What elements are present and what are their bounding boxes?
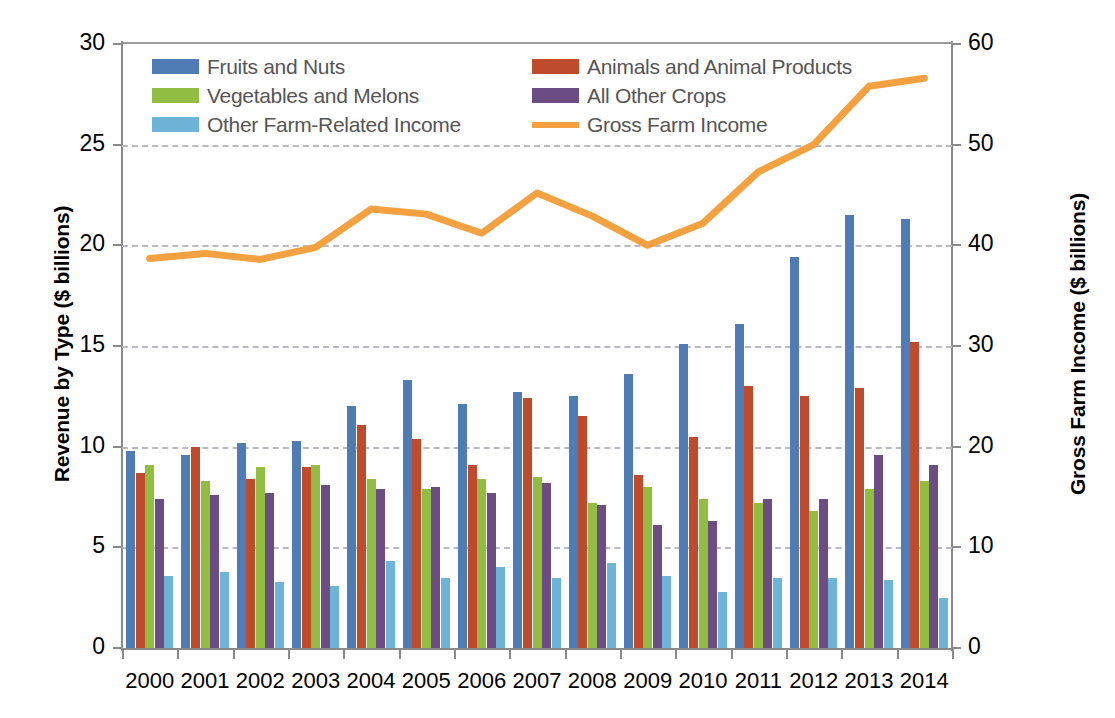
bar <box>513 392 522 648</box>
bar <box>578 416 587 648</box>
bar <box>126 451 135 648</box>
bar <box>458 404 467 648</box>
y-axis-left-tick-label: 30 <box>45 29 105 56</box>
x-axis-tick <box>565 649 567 659</box>
bar <box>754 503 763 648</box>
x-axis-tick <box>731 649 733 659</box>
y-axis-left-tick <box>113 647 122 649</box>
y-axis-left-tick <box>113 43 122 45</box>
legend-item-label: All Other Crops <box>587 84 726 108</box>
legend-color-swatch-icon <box>152 59 199 74</box>
y-axis-right-tick-label: 50 <box>968 130 1028 157</box>
bar <box>311 465 320 648</box>
bar <box>357 425 366 648</box>
bar <box>376 489 385 648</box>
bar <box>662 576 671 648</box>
legend-color-swatch-icon <box>532 59 579 74</box>
bar <box>597 505 606 648</box>
x-axis-line <box>121 648 953 650</box>
bar <box>201 481 210 648</box>
y-axis-left-tick <box>113 345 122 347</box>
bar <box>773 578 782 648</box>
legend-item[interactable]: Fruits and Nuts <box>152 52 461 81</box>
x-axis-tick <box>509 649 511 659</box>
bar <box>624 374 633 648</box>
bar <box>929 465 938 648</box>
y-axis-right-tick <box>952 546 961 548</box>
bar <box>828 578 837 648</box>
legend-color-swatch-icon <box>532 88 579 103</box>
x-axis-tick <box>786 649 788 659</box>
x-axis-tick <box>343 649 345 659</box>
bar <box>275 582 284 648</box>
legend-item[interactable]: All Other Crops <box>532 81 852 110</box>
bar <box>689 437 698 648</box>
bar <box>569 396 578 648</box>
bar <box>845 215 854 648</box>
bar <box>800 396 809 648</box>
y-axis-right-tick <box>952 446 961 448</box>
y-axis-right-tick-label: 0 <box>968 633 1028 660</box>
legend-column-right: Animals and Animal ProductsAll Other Cro… <box>532 52 852 139</box>
x-axis-tick <box>288 649 290 659</box>
bar <box>246 479 255 648</box>
x-axis-tick <box>399 649 401 659</box>
chart-legend: Fruits and NutsVegetables and MelonsOthe… <box>152 52 912 140</box>
y-axis-left-tick <box>113 244 122 246</box>
x-axis-tick <box>620 649 622 659</box>
bar <box>819 499 828 648</box>
legend-item-label: Gross Farm Income <box>587 113 767 137</box>
y-axis-right-tick-label: 60 <box>968 29 1028 56</box>
bar <box>256 467 265 648</box>
legend-color-swatch-icon <box>152 88 199 103</box>
x-axis-tick-label: 2014 <box>889 668 959 694</box>
y-axis-right-tick-label: 10 <box>968 532 1028 559</box>
bar <box>643 487 652 648</box>
y-axis-right-title: Gross Farm Income ($ billions) <box>1066 134 1090 554</box>
bar <box>422 489 431 648</box>
bar <box>477 479 486 648</box>
legend-line-swatch-icon <box>532 122 579 128</box>
y-axis-left-tick-label: 5 <box>45 532 105 559</box>
chart-container: Revenue by Type ($ billions) Gross Farm … <box>0 0 1115 718</box>
bar <box>763 499 772 648</box>
bar <box>679 344 688 648</box>
bar <box>607 563 616 648</box>
legend-item[interactable]: Animals and Animal Products <box>532 52 852 81</box>
gridline <box>122 447 952 449</box>
bar <box>441 578 450 648</box>
bar <box>653 525 662 648</box>
bar <box>496 567 505 648</box>
y-axis-left-tick-label: 25 <box>45 130 105 157</box>
bar <box>855 388 864 648</box>
x-axis-tick <box>233 649 235 659</box>
bar <box>634 475 643 648</box>
bar <box>386 561 395 648</box>
bar <box>939 598 948 648</box>
y-axis-right-tick-label: 20 <box>968 432 1028 459</box>
bar <box>523 398 532 648</box>
x-axis-tick <box>454 649 456 659</box>
bar <box>181 455 190 648</box>
bar <box>403 380 412 648</box>
bar <box>468 465 477 648</box>
bar <box>790 257 799 648</box>
bar <box>874 455 883 648</box>
bar <box>588 503 597 648</box>
legend-item[interactable]: Gross Farm Income <box>532 110 852 139</box>
bar <box>265 493 274 648</box>
bar <box>220 572 229 649</box>
legend-item[interactable]: Vegetables and Melons <box>152 81 461 110</box>
y-axis-right-tick-label: 30 <box>968 331 1028 358</box>
legend-color-swatch-icon <box>152 117 199 132</box>
y-axis-left-tick <box>113 546 122 548</box>
bar <box>920 481 929 648</box>
legend-item[interactable]: Other Farm-Related Income <box>152 110 461 139</box>
bar <box>191 447 200 648</box>
y-axis-left-tick-label: 0 <box>45 633 105 660</box>
x-axis-tick <box>177 649 179 659</box>
bar <box>431 487 440 648</box>
bar <box>164 576 173 648</box>
bar <box>901 219 910 648</box>
legend-item-label: Animals and Animal Products <box>587 55 852 79</box>
